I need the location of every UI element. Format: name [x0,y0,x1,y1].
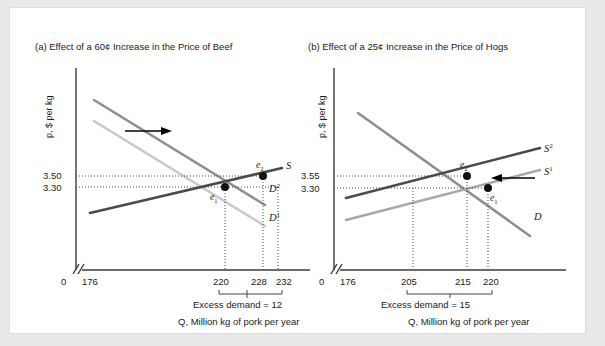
panel-b-price-tick-330: 3.30 [301,183,320,194]
panel-a-origin-label: 0 [61,276,66,287]
panel-b-supply-curve-s2 [346,148,540,198]
panel-a-equilibrium-dot-e2 [259,172,267,180]
panel-b-origin-label: 0 [319,276,324,287]
panel-a-excess-demand-bracket [219,290,247,298]
panel-b-title: (b) Effect of a 25¢ Increase in the Pric… [308,41,508,52]
panel-b-curve-label-d: D [533,211,542,222]
panel-b-axis-break-tick: 176 [340,276,356,287]
panel-b-curve-label-s2: S2 [544,142,553,154]
panel-a-axis-break-tick: 176 [82,276,98,287]
panel-a-curve-label-s: S [286,160,292,171]
panel-b-excess-demand-caption: Excess demand = 15 [381,299,470,310]
panel-b-price-tick-355: 3.55 [301,170,320,181]
panel-a-demand-curve-d2 [94,100,265,205]
panel-a-title: (a) Effect of a 60¢ Increase in the Pric… [35,41,233,52]
panel-b-excess-demand-bracket [407,290,450,298]
panel-b-equilibrium-dot-e2 [463,172,471,180]
panel-b-demand-curve-d [358,113,530,236]
panel-a-price-tick-350: 3.50 [43,170,62,181]
panel-a-supply-curve-s [90,168,282,213]
panel-b-x-axis-label: Q, Million kg of pork per year [408,316,529,327]
panel-a-equilibrium-dot-e1 [221,183,229,191]
panel-b-equilibrium-dot-e1 [484,184,492,192]
figure-card: (a) Effect of a 60¢ Increase in the Pric… [10,8,585,333]
panel-a-quantity-tick-228: 228 [251,276,267,287]
panel-b-equilibrium-label-e2: e2 [460,160,467,172]
panel-a-excess-demand-bracket-right [247,290,282,294]
figure-root: (a) Effect of a 60¢ Increase in the Pric… [0,0,605,346]
panel-b-quantity-tick-205: 205 [401,276,417,287]
panel-a-y-axis-label: p, $ per kg [44,95,54,138]
panel-a-excess-demand-caption: Excess demand = 12 [193,299,282,310]
panel-a-x-axis-label: Q, Million kg of pork per year [178,316,299,327]
panel-a-equilibrium-label-e1: e1 [210,192,217,204]
panel-b-curve-label-s1: S1 [544,165,553,177]
panel-a-equilibrium-label-e2: e2 [256,160,263,172]
panel-a-curve-label-d2: D2 [268,182,281,194]
panel-b-equilibrium-label-e1: e1 [490,193,497,205]
panel-b-excess-demand-bracket-right [450,290,492,294]
panel-a-quantity-tick-220: 220 [213,276,229,287]
panel-a-demand-curve-d1 [94,121,265,226]
panel-b-y-axis-label: p, $ per kg [317,95,327,138]
economics-supply-demand-figure: (a) Effect of a 60¢ Increase in the Pric… [10,8,585,333]
panel-b-quantity-tick-220: 220 [483,276,499,287]
panel-a-curve-label-d1: D1 [268,211,281,223]
panel-a-quantity-tick-232: 232 [276,276,292,287]
panel-a-price-tick-330: 3.30 [43,182,62,193]
panel-b: (b) Effect of a 25¢ Increase in the Pric… [301,41,566,327]
panel-a: (a) Effect of a 60¢ Increase in the Pric… [35,41,310,327]
panel-b-quantity-tick-215: 215 [455,276,471,287]
